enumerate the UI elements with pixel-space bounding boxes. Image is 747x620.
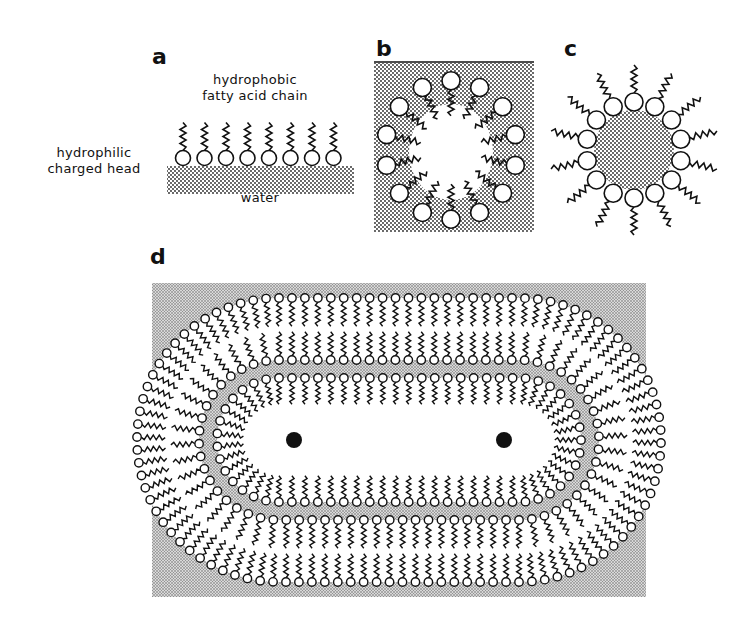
water-stipple — [167, 166, 354, 194]
panel-b-reverse-micelle — [374, 62, 534, 232]
panel-a-monolayer — [167, 123, 354, 195]
membrane-diagram — [0, 0, 747, 620]
panel-d-vesicle — [133, 283, 665, 597]
panel-c-micelle — [551, 65, 717, 235]
